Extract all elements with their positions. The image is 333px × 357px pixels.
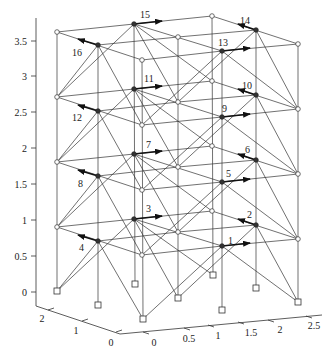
y-tick-1: 1 (74, 325, 79, 336)
node-label-8: 8 (78, 178, 83, 189)
node-label-16: 16 (72, 47, 82, 58)
x-tick-0-5: 0.5 (183, 333, 196, 344)
node-label-9: 9 (222, 103, 227, 114)
node-label-3: 3 (146, 203, 151, 214)
node-label-1: 1 (228, 235, 233, 246)
node-label-4: 4 (79, 242, 84, 253)
z-tick-0-5: 0.5 (15, 251, 28, 262)
z-tick-2: 2 (22, 143, 27, 154)
z-tick-0: 0 (22, 287, 27, 298)
y-tick-0: 0 (109, 337, 114, 348)
x-tick-1-5: 1.5 (245, 327, 258, 338)
structure-plot: 0 0.5 1 1.5 2 2.5 3 3.5 2 1 0 0 0.5 1 1.… (0, 0, 333, 357)
z-tick-2-5: 2.5 (15, 107, 28, 118)
z-tick-1-5: 1.5 (15, 179, 28, 190)
node-label-5: 5 (226, 168, 231, 179)
node-label-11: 11 (144, 73, 154, 84)
node-label-2: 2 (247, 209, 252, 220)
y-axis: 2 1 0 (36, 306, 122, 348)
node-label-15: 15 (140, 9, 150, 20)
y-tick-2: 2 (40, 313, 45, 324)
z-tick-3-5: 3.5 (15, 36, 28, 47)
z-axis: 0 0.5 1 1.5 2 2.5 3 3.5 (15, 18, 37, 306)
x-tick-1: 1 (216, 330, 221, 341)
z-axis-ticks (31, 41, 36, 292)
node-label-10: 10 (242, 80, 252, 91)
node-label-6: 6 (245, 144, 250, 155)
node-label-14: 14 (240, 15, 250, 26)
nodes (55, 14, 301, 258)
x-axis: 0 0.5 1 1.5 2 2.5 (120, 315, 322, 348)
x-tick-2: 2 (278, 324, 283, 335)
z-tick-3: 3 (22, 71, 27, 82)
z-tick-1: 1 (22, 215, 27, 226)
node-label-13: 13 (218, 37, 228, 48)
node-label-7: 7 (146, 139, 151, 150)
node-label-12: 12 (72, 112, 82, 123)
supports (54, 272, 301, 322)
bracing (57, 24, 298, 319)
x-tick-0: 0 (152, 337, 157, 348)
x-tick-2-5: 2.5 (308, 320, 321, 331)
